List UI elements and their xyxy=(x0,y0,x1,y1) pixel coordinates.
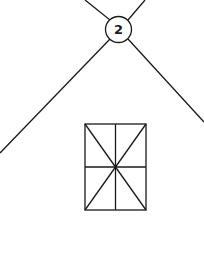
top-right-ray xyxy=(128,0,145,20)
diagram-canvas: 2 xyxy=(0,0,204,255)
roof-right-line xyxy=(128,39,204,122)
number-badge-label: 2 xyxy=(114,22,123,37)
top-left-ray xyxy=(85,0,110,20)
window-grid xyxy=(85,124,146,210)
